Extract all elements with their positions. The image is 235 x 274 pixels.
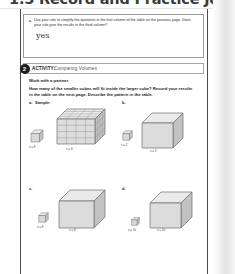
journal-page: 1.5 Record and Practice Journal c. Use y… (0, 0, 235, 274)
question-text: Use your rule to simplify the quotients … (34, 18, 195, 28)
question-marker: c. (29, 19, 32, 23)
page-border-left (20, 9, 21, 274)
problem-d-large-cube-label: s = 10² (157, 228, 166, 232)
problem-c-small-cube (38, 212, 49, 223)
activity-label: ACTIVITY: (32, 66, 55, 71)
problem-c-small-cube-label: s = 8 (37, 225, 43, 229)
problem-d-small-cube-label: s = 10 (128, 228, 136, 232)
page-title: 1.5 Record and Practice Journal (9, 0, 235, 7)
problem-a-sample-note: Sample: (35, 100, 51, 105)
problem-b-small-cube-label: s = 2 (121, 143, 127, 147)
problem-d-small-cube (131, 217, 140, 226)
problem-a-small-cube (30, 129, 44, 143)
problem-d-large-cube (148, 191, 194, 229)
problem-b-letter: b. (122, 100, 126, 105)
activity-title: Comparing Volumes (54, 66, 97, 71)
problem-b-large-cube-label: s = 2² (150, 149, 157, 153)
problem-b-small-cube (122, 130, 133, 141)
problem-a-large-cube (55, 108, 107, 145)
problem-b-large-cube (140, 112, 185, 149)
problem-a-small-cube-label: s = 8 (29, 145, 35, 149)
activity-prompt: How many of the smaller cubes will fit i… (29, 86, 197, 97)
problem-c-large-cube-label: s = 8² (69, 228, 76, 232)
problem-a-letter: a. (29, 100, 32, 105)
page-gutter-shadow (213, 0, 235, 274)
page-border-right (207, 9, 208, 274)
problem-c-large-cube (57, 189, 107, 229)
handwritten-answer: yes (36, 31, 49, 40)
partner-note: Work with a partner. (29, 78, 69, 83)
problem-d-letter: d. (122, 186, 126, 191)
problem-c-letter: c. (29, 186, 32, 191)
problem-a-large-cube-label: s = 4² (66, 147, 73, 151)
activity-number-badge: 2 (20, 64, 30, 74)
